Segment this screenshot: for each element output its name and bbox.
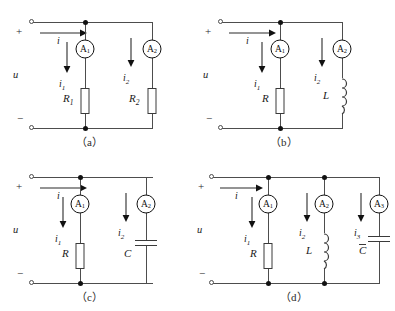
polarity-minus-label: − [17, 268, 23, 279]
resistor-r1-label: R1 [63, 93, 73, 107]
ammeter-a2-label: A [337, 44, 344, 54]
panel-caption-c: （c） [76, 292, 103, 303]
current-arrow-i1 [257, 42, 267, 74]
resistor-r-label: R [62, 248, 69, 262]
panel-caption-b: （b） [270, 137, 298, 148]
voltage-label-u: u [13, 225, 18, 236]
ammeter-a1: A1 [259, 195, 278, 214]
inductor-l-label: L [306, 245, 312, 259]
circuit-panel-d: + − u i A1 i1 R [197, 155, 395, 311]
node-dot-bottom-1 [78, 281, 83, 286]
resistor-r [276, 88, 285, 114]
ammeter-a1: A1 [271, 40, 290, 59]
node-dot-bottom-2 [322, 281, 327, 286]
ammeter-a1-index: 1 [282, 48, 285, 55]
ammeter-a2-index: 2 [148, 203, 151, 210]
ammeter-a1-label: A [263, 199, 270, 209]
current-arrow-i1 [62, 42, 72, 74]
current-label-i: i [246, 36, 249, 46]
circuit-panel-b: + − u i A1 i1 R A2 [197, 0, 395, 155]
ammeter-a2: A2 [315, 195, 334, 214]
current-label-i2: i2 [123, 73, 129, 86]
node-dot-top-1 [78, 175, 83, 180]
circuit-panel-c: + − u i A1 i1 R A2 [0, 155, 197, 311]
ammeter-a2-index: 2 [344, 48, 347, 55]
polarity-minus-label: − [199, 268, 205, 279]
current-arrow-i1 [58, 197, 68, 229]
capacitor-plate-bottom [135, 245, 157, 246]
polarity-plus-label: + [205, 26, 211, 37]
ammeter-a2-label: A [141, 199, 148, 209]
ammeter-a3-index: 3 [381, 203, 384, 210]
node-dot-top-1 [278, 20, 283, 25]
bottom-rail-wire [212, 283, 380, 284]
current-label-i: i [57, 36, 60, 46]
ammeter-a2-label: A [147, 44, 154, 54]
resistor-r [76, 243, 85, 269]
inductor-l [323, 233, 335, 270]
ammeter-a3: A3 [370, 195, 389, 214]
inductor-l [341, 78, 353, 115]
resistor-r2-label: R2 [129, 93, 139, 107]
terminal-positive [218, 19, 223, 24]
current-arrow-i1 [247, 197, 257, 229]
ammeter-a1-index: 1 [87, 48, 90, 55]
current-arrow-i2 [126, 38, 136, 68]
terminal-negative [29, 280, 34, 285]
capacitor-c-label: C [124, 248, 131, 262]
ammeter-a1: A1 [71, 195, 90, 214]
ammeter-a2-label: A [319, 199, 326, 209]
current-arrow-i [220, 183, 264, 193]
node-dot-bottom-1 [266, 281, 271, 286]
polarity-plus-label: + [198, 181, 204, 192]
capacitor-plate-top [135, 240, 157, 241]
ammeter-a3-label: A [374, 199, 381, 209]
node-dot-top-1 [266, 175, 271, 180]
resistor-r2 [148, 88, 157, 114]
voltage-label-u: u [13, 70, 18, 81]
branch-2-wire-bottom [146, 246, 147, 283]
terminal-negative [209, 280, 214, 285]
capacitor-plate-top [368, 236, 390, 237]
branch-2-wire-bottom [342, 114, 343, 128]
ammeter-a2: A2 [143, 40, 162, 59]
current-label-i1: i1 [254, 79, 260, 92]
terminal-positive [209, 174, 214, 179]
capacitor-plate-bottom [368, 241, 390, 242]
voltage-label-u: u [197, 225, 202, 236]
current-label-i: i [235, 191, 238, 201]
panel-caption-a: （a） [76, 137, 103, 148]
circuit-panel-a: + − u i A1 i1 R1 A2 [0, 0, 197, 155]
node-dot-bottom-1 [83, 126, 88, 131]
current-arrow-i2 [121, 193, 131, 223]
resistor-r-label: R [250, 248, 257, 262]
terminal-negative [218, 125, 223, 130]
ammeter-a1-label: A [75, 199, 82, 209]
current-arrow-i [40, 28, 88, 38]
polarity-minus-label: − [17, 113, 23, 124]
ammeter-a1-label: A [80, 44, 87, 54]
resistor-r-label: R [262, 93, 269, 107]
current-label-i2: i2 [299, 228, 305, 241]
figure-canvas: + − u i A1 i1 R1 A2 [0, 0, 395, 311]
polarity-minus-label: − [206, 113, 212, 124]
node-dot-bottom-1 [278, 126, 283, 131]
branch-2-wire-mid [342, 58, 343, 78]
node-dot-top-2 [322, 175, 327, 180]
current-label-i2: i2 [118, 228, 124, 241]
current-label-i1: i1 [55, 234, 61, 247]
top-rail-wire [212, 177, 380, 178]
ammeter-a2-index: 2 [326, 203, 329, 210]
resistor-r1 [81, 88, 90, 114]
resistor-r [264, 243, 273, 269]
capacitor-c [368, 236, 390, 243]
top-rail-wire [32, 22, 153, 23]
current-arrow-i [229, 28, 277, 38]
polarity-plus-label: + [16, 26, 22, 37]
current-label-i1: i1 [59, 79, 65, 92]
current-arrow-i2 [317, 38, 327, 68]
current-label-i3: i3 [354, 228, 360, 241]
capacitor-c-label: C [359, 244, 366, 259]
ammeter-a1-label: A [275, 44, 282, 54]
terminal-positive [29, 174, 34, 179]
